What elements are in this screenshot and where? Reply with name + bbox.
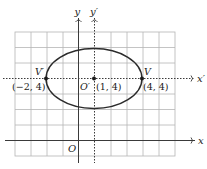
ellipse-diagram: x y O x′ y′ V′ (−2, 4) O′ (1, 4) V (4, 4… bbox=[0, 0, 207, 169]
x-prime-label: x′ bbox=[197, 73, 206, 84]
point-name-label: O′ bbox=[80, 81, 91, 92]
point-coord-label: (4, 4) bbox=[143, 81, 169, 92]
y-axis-label: y bbox=[74, 6, 81, 17]
y-prime-label: y′ bbox=[89, 6, 99, 17]
point-marker-icon bbox=[92, 77, 96, 81]
point-marker-icon bbox=[44, 77, 48, 81]
x-axis-label: x bbox=[198, 135, 204, 146]
x-prime-arrow-icon bbox=[191, 76, 193, 82]
origin-label: O bbox=[68, 143, 76, 154]
point-name-label: V′ bbox=[35, 66, 45, 77]
point-name-label: V bbox=[144, 66, 152, 77]
x-axis: x bbox=[5, 135, 204, 146]
point-coord-label: (−2, 4) bbox=[12, 81, 46, 92]
point-coord-label: (1, 4) bbox=[96, 81, 122, 92]
point-marker-icon bbox=[140, 77, 144, 81]
